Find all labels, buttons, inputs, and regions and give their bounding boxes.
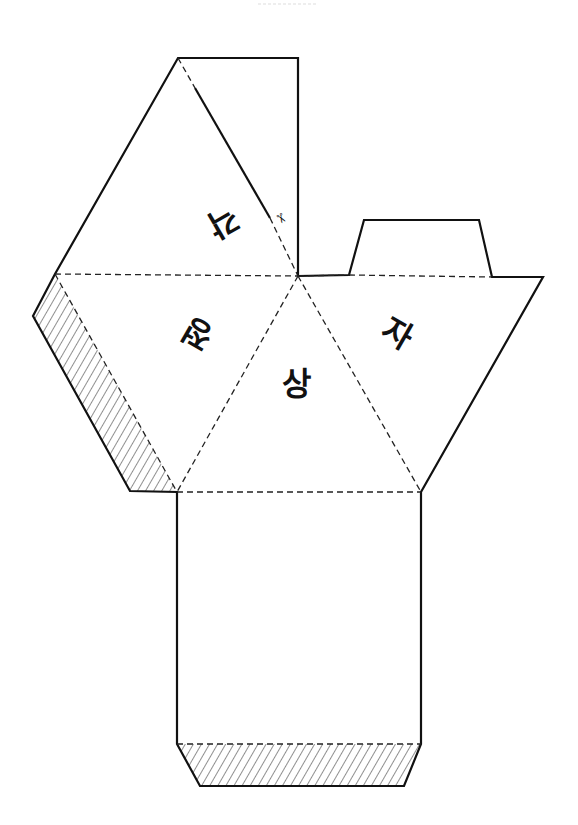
fold-top-left bbox=[55, 274, 298, 276]
top-triangle-cut-edge bbox=[195, 88, 270, 218]
label-top: 각 bbox=[201, 198, 245, 245]
left-glue-flap bbox=[33, 274, 177, 492]
top-fold-segment-lower bbox=[270, 218, 298, 276]
label-right: 자 bbox=[375, 310, 420, 358]
top-fold-segment bbox=[178, 58, 195, 88]
bottom-glue-flap bbox=[177, 744, 421, 786]
fold-diag-right bbox=[298, 276, 421, 492]
label-center: 상 bbox=[282, 365, 311, 403]
scissors-icon: ✂ bbox=[272, 210, 290, 227]
box-net-diagram: ✂ 각 정 상 자 bbox=[0, 0, 578, 825]
fold-diag-left bbox=[177, 276, 298, 492]
fold-tab bbox=[349, 275, 492, 277]
label-left: 정 bbox=[176, 309, 220, 356]
